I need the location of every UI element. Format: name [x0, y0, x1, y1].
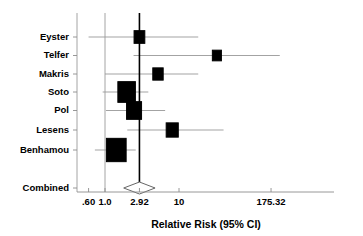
effect-marker [134, 31, 145, 44]
effect-marker [106, 138, 126, 161]
study-label: Makris [39, 68, 69, 79]
study-label: Lesens [36, 124, 69, 135]
effect-marker [166, 123, 178, 137]
study-label-combined: Combined [23, 182, 70, 193]
study-label: Benhamou [20, 144, 69, 155]
study-label: Pol [54, 104, 69, 115]
x-tick-label: 2.92 [130, 196, 149, 207]
x-tick-label: 10 [174, 196, 185, 207]
effect-marker [118, 82, 136, 103]
x-tick-label: 1.0 [98, 196, 111, 207]
x-tick-label: 175.32 [257, 196, 286, 207]
study-label: Eyster [40, 31, 69, 42]
effect-marker [153, 68, 163, 80]
forest-plot: EysterTelferMakrisSotoPolLesensBenhamouC… [0, 0, 363, 236]
x-axis-title: Relative Risk (95% CI) [151, 218, 261, 230]
effect-marker [212, 50, 221, 61]
study-label: Telfer [44, 49, 69, 60]
effect-marker [127, 102, 142, 120]
study-label: Soto [48, 86, 69, 97]
x-tick-label: .60 [82, 196, 95, 207]
forest-plot-canvas: EysterTelferMakrisSotoPolLesensBenhamouC… [0, 0, 363, 236]
